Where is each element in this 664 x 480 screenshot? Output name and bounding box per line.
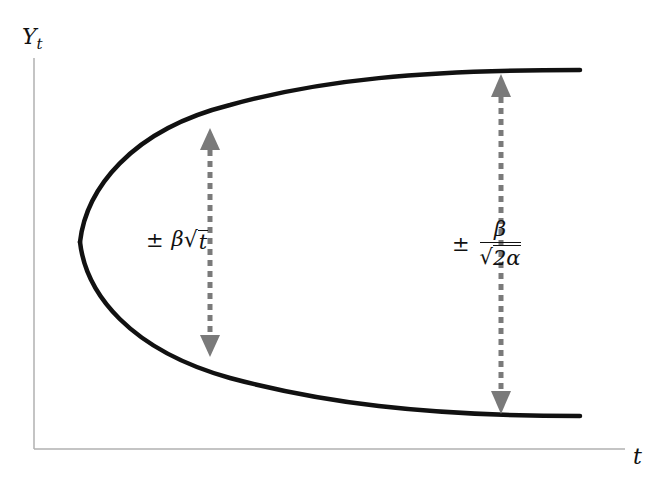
sqrt-symbol: √ xyxy=(480,245,493,270)
radicand: t xyxy=(198,230,208,253)
beta-symbol: β xyxy=(172,227,184,251)
fraction: β √ 2α xyxy=(480,218,521,270)
y-axis-label: Yt xyxy=(22,24,43,53)
numerator: β xyxy=(494,218,506,242)
sqrt-symbol: √ xyxy=(184,227,198,252)
right-annotation: ± β √ 2α xyxy=(452,218,521,270)
plus-minus-symbol: ± xyxy=(452,232,470,256)
diagram-canvas xyxy=(0,0,664,480)
x-axis-label: t xyxy=(633,444,642,469)
denominator-radicand: 2α xyxy=(493,245,521,270)
left-annotation: ± β √ t xyxy=(146,227,208,253)
plus-minus-symbol: ± xyxy=(146,228,164,252)
